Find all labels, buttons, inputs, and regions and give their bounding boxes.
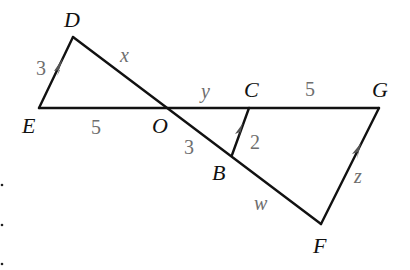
side-label-DO: x: [119, 44, 129, 66]
margin-dot: [1, 184, 4, 187]
point-label-C: C: [244, 77, 259, 102]
parallel-arrow-icon-FG: [352, 143, 361, 159]
side-label-FG: z: [353, 165, 362, 187]
point-label-D: D: [63, 7, 80, 32]
side-label-BF: w: [254, 192, 268, 214]
margin-dot: [1, 263, 4, 266]
side-label-CG: 5: [305, 78, 315, 100]
geometry-diagram: D E O C G B F 3 x 5 y 5 3 2 w z: [0, 0, 410, 270]
point-label-O: O: [152, 113, 168, 138]
segment-FG: [321, 108, 379, 224]
point-label-B: B: [212, 160, 225, 185]
side-label-BC: 2: [250, 131, 260, 153]
side-label-OC: y: [199, 80, 210, 103]
side-label-OB: 3: [184, 136, 194, 158]
side-label-ED: 3: [36, 57, 46, 79]
segment-DF: [73, 37, 321, 224]
side-label-EO: 5: [91, 116, 101, 138]
point-label-G: G: [372, 77, 388, 102]
point-label-F: F: [312, 233, 327, 258]
point-label-E: E: [21, 113, 36, 138]
margin-dot: [1, 224, 4, 227]
